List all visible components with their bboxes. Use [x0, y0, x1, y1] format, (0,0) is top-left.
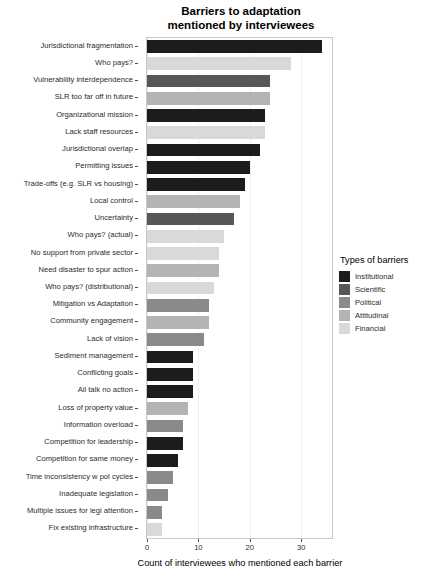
legend-item[interactable]: Institutional: [339, 270, 434, 283]
y-axis-tick: [135, 339, 138, 340]
bar[interactable]: [147, 437, 183, 450]
y-axis-label: Sediment management: [54, 351, 133, 360]
bar[interactable]: [147, 75, 270, 88]
y-axis-label: Mitigation vs Adaptation: [53, 299, 133, 308]
y-axis-tick: [135, 304, 138, 305]
y-axis-tick: [135, 373, 138, 374]
bar[interactable]: [147, 213, 234, 226]
bar[interactable]: [147, 333, 204, 346]
bars-layer: [147, 38, 332, 538]
bar[interactable]: [147, 109, 265, 122]
bar[interactable]: [147, 126, 265, 139]
bar[interactable]: [147, 506, 162, 519]
y-axis-tick: [135, 201, 138, 202]
y-axis-label: Lack staff resources: [65, 127, 133, 136]
bar[interactable]: [147, 368, 193, 381]
y-axis-tick: [135, 287, 138, 288]
bar[interactable]: [147, 161, 250, 174]
bar-row: [147, 230, 332, 243]
y-axis-label: Inadequate legislation: [59, 489, 133, 498]
bar[interactable]: [147, 264, 219, 277]
y-axis-tick: [135, 494, 138, 495]
y-axis-tick: [135, 390, 138, 391]
legend-swatch: [339, 297, 350, 308]
bar-row: [147, 454, 332, 467]
y-axis-tick: [135, 235, 138, 236]
bar-row: [147, 368, 332, 381]
bar[interactable]: [147, 144, 260, 157]
bar-row: [147, 126, 332, 139]
bar-row: [147, 523, 332, 536]
y-axis-label: Loss of property value: [58, 403, 133, 412]
y-axis-tick: [135, 63, 138, 64]
legend-label: Attitudinal: [355, 311, 388, 320]
y-axis-label: Jurisdictional overlap: [62, 144, 133, 153]
legend-item[interactable]: Scientific: [339, 283, 434, 296]
y-axis-label: Fix existing infrastructure: [49, 523, 133, 532]
bar[interactable]: [147, 40, 322, 53]
legend-swatch: [339, 284, 350, 295]
bar-row: [147, 420, 332, 433]
y-axis-label: Time inconsistency w pol cycles: [26, 472, 133, 481]
bar-row: [147, 402, 332, 415]
bar-row: [147, 40, 332, 53]
bar[interactable]: [147, 454, 178, 467]
chart-title: Barriers to adaptation mentioned by inte…: [146, 4, 336, 32]
bar-row: [147, 161, 332, 174]
bar[interactable]: [147, 351, 193, 364]
x-axis-tick-label: 0: [145, 543, 149, 552]
bar[interactable]: [147, 230, 224, 243]
bar[interactable]: [147, 523, 162, 536]
plot-area: [146, 37, 333, 539]
bar[interactable]: [147, 489, 168, 502]
x-axis-tick: [301, 539, 302, 542]
y-axis-label: Community engagement: [50, 316, 133, 325]
legend-title: Types of barriers: [340, 255, 434, 265]
bar[interactable]: [147, 178, 245, 191]
bar-row: [147, 75, 332, 88]
bar[interactable]: [147, 471, 173, 484]
bar[interactable]: [147, 299, 209, 312]
bar[interactable]: [147, 247, 219, 260]
y-axis-label: SLR too far off in future: [55, 92, 133, 101]
bar-row: [147, 92, 332, 105]
y-axis-tick: [135, 149, 138, 150]
y-axis-tick: [135, 425, 138, 426]
bar-row: [147, 195, 332, 208]
bar-row: [147, 264, 332, 277]
legend-item[interactable]: Financial: [339, 322, 434, 335]
bar-chart: Barriers to adaptation mentioned by inte…: [0, 0, 436, 577]
x-axis-tick: [147, 539, 148, 542]
x-axis-tick-label: 30: [297, 543, 305, 552]
y-axis-label: Lack of vision: [87, 334, 133, 343]
bar[interactable]: [147, 385, 193, 398]
legend-item[interactable]: Political: [339, 296, 434, 309]
bar-row: [147, 247, 332, 260]
legend-swatch: [339, 323, 350, 334]
y-axis-tick: [135, 46, 138, 47]
bar[interactable]: [147, 57, 291, 70]
legend-label: Institutional: [355, 272, 393, 281]
y-axis-label: No support from private sector: [31, 248, 133, 257]
bar-row: [147, 213, 332, 226]
x-axis: 0102030: [146, 539, 333, 557]
legend-item[interactable]: Attitudinal: [339, 309, 434, 322]
bar[interactable]: [147, 282, 214, 295]
x-axis-title: Count of interviewees who mentioned each…: [110, 558, 370, 568]
y-axis-tick: [135, 270, 138, 271]
y-axis-label: Competition for same money: [36, 454, 133, 463]
bar[interactable]: [147, 195, 240, 208]
y-axis-label: Vulnerability interdependence: [33, 75, 133, 84]
y-axis-tick: [135, 356, 138, 357]
y-axis-label: All talk no action: [78, 385, 133, 394]
bar-row: [147, 489, 332, 502]
y-axis-tick: [135, 511, 138, 512]
bar[interactable]: [147, 420, 183, 433]
bar[interactable]: [147, 92, 270, 105]
y-axis-label: Competition for leadership: [44, 437, 133, 446]
bar[interactable]: [147, 402, 188, 415]
y-axis-tick: [135, 115, 138, 116]
y-axis-tick: [135, 408, 138, 409]
y-axis: Jurisdictional fragmentationWho pays?Vul…: [0, 37, 140, 539]
bar[interactable]: [147, 316, 209, 329]
